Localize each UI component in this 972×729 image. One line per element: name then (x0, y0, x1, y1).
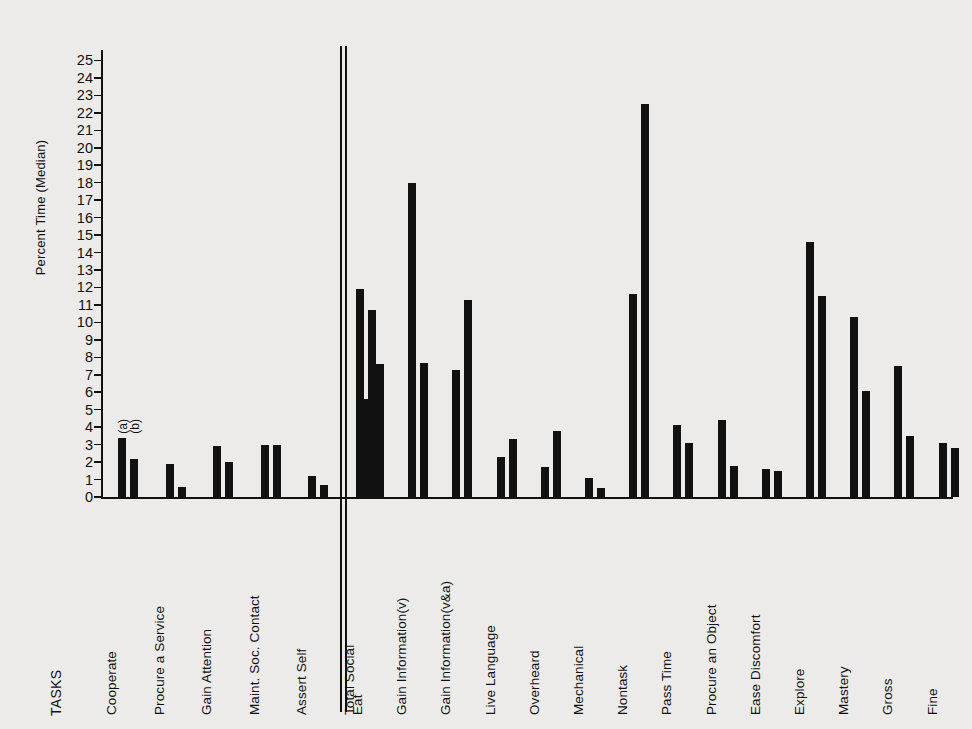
bar (806, 242, 814, 497)
bar (597, 488, 605, 497)
x-axis-tick-labels: TASKS CooperateProcure a ServiceGain Att… (0, 497, 972, 729)
x-axis-title: TASKS (48, 670, 64, 716)
y-axis-tick (94, 374, 101, 376)
y-axis-tick (94, 322, 101, 324)
y-axis-tick-label: 24 (77, 71, 93, 86)
x-axis-tick-label: Gross (880, 678, 895, 715)
bar (553, 431, 561, 497)
y-axis-tick-label: 16 (77, 211, 93, 226)
y-axis-tick-label: 14 (77, 246, 93, 261)
bar (464, 300, 472, 497)
bar (818, 296, 826, 497)
y-axis-tick (94, 391, 101, 393)
y-axis-tick-label: 15 (77, 228, 93, 243)
y-axis-tick (94, 60, 101, 62)
y-axis-tick (94, 147, 101, 149)
y-axis-tick-label: 12 (77, 280, 93, 295)
bar (130, 459, 138, 497)
x-axis-tick-label: Procure an Object (704, 604, 719, 715)
y-axis-tick-label: 18 (77, 176, 93, 191)
bar (541, 467, 549, 497)
bar (376, 364, 384, 497)
y-axis-tick-label: 23 (77, 88, 93, 103)
bar (368, 310, 376, 497)
y-axis-tick-label: 20 (77, 141, 93, 156)
y-axis-tick (94, 269, 101, 271)
bar (320, 485, 328, 497)
bar (213, 446, 221, 497)
y-axis-tick (94, 357, 101, 359)
bar (762, 469, 770, 497)
bar (178, 487, 186, 497)
bar (452, 370, 460, 497)
y-axis-tick-label: 1 (85, 473, 93, 488)
y-axis-tick (94, 252, 101, 254)
y-axis-tick-label: 11 (78, 298, 93, 313)
y-axis-tick (94, 95, 101, 97)
bar (850, 317, 858, 497)
y-axis-tick (94, 339, 101, 341)
y-axis-tick (94, 287, 101, 289)
y-axis-tick-label: 8 (85, 350, 93, 365)
bar (894, 366, 902, 497)
x-axis-tick-label: Gain Information(v&a) (438, 581, 453, 715)
bar (273, 445, 281, 497)
plot-area: (a)(b) (101, 50, 953, 497)
y-axis-tick (94, 461, 101, 463)
x-axis-tick-label: Eat (350, 694, 365, 715)
bar (673, 425, 681, 497)
bar (939, 443, 947, 497)
bar (906, 436, 914, 497)
y-axis-tick (94, 217, 101, 219)
y-axis-tick (94, 304, 101, 306)
bar (685, 443, 693, 497)
x-axis-tick-label: Gain Attention (199, 629, 214, 715)
bar (261, 445, 269, 497)
x-axis-tick-label: Fine (925, 688, 940, 715)
x-axis-tick-label: Live Language (483, 625, 498, 715)
y-axis-tick-label: 3 (85, 438, 93, 453)
bar (118, 438, 126, 497)
y-axis-tick (94, 234, 101, 236)
y-axis-tick-label: 21 (77, 123, 93, 138)
x-axis-tick-label: Overheard (527, 650, 542, 715)
y-axis-tick (94, 479, 101, 481)
y-axis-tick (94, 199, 101, 201)
bar (509, 439, 517, 497)
y-axis-tick-label: 5 (85, 403, 93, 418)
bar (585, 478, 593, 497)
y-axis-line (101, 50, 103, 498)
x-axis-tick-label: Gain Information(v) (394, 598, 409, 715)
y-axis-tick (94, 426, 101, 428)
y-axis-tick (94, 112, 101, 114)
y-axis-tick (94, 444, 101, 446)
y-axis-tick-label: 9 (85, 333, 93, 348)
x-axis-tick-label: Assert Self (294, 649, 309, 715)
y-axis-tick-label: 25 (77, 53, 93, 68)
y-axis-tick-label: 7 (85, 368, 93, 383)
y-axis-tick-label: 22 (77, 106, 93, 121)
y-axis-tick-label: 4 (85, 420, 93, 435)
y-axis-tick-label: 13 (77, 263, 93, 278)
y-axis-tick (94, 182, 101, 184)
x-axis-tick-label: Pass Time (659, 651, 674, 715)
x-axis-tick-label: Procure a Service (152, 606, 167, 715)
bar (408, 183, 416, 497)
series-marker-b: (b) (128, 419, 142, 434)
x-axis-tick-label: Mastery (836, 666, 851, 715)
x-axis-tick-label: Mechanical (571, 646, 586, 715)
x-axis-tick-label: Ease Discomfort (748, 614, 763, 715)
y-axis-tick (94, 409, 101, 411)
section-divider-rule (345, 46, 347, 497)
bar (420, 363, 428, 497)
x-axis-tick-label: Maint. Soc. Contact (247, 595, 262, 715)
y-axis-tick (94, 164, 101, 166)
bar (730, 466, 738, 497)
bar (166, 464, 174, 497)
x-axis-tick-label: Explore (792, 669, 807, 715)
x-axis-tick-label: Nontask (615, 665, 630, 715)
y-axis-tick (94, 77, 101, 79)
y-axis-tick-label: 6 (85, 385, 93, 400)
y-axis-tick-label: 19 (77, 158, 93, 173)
bar (629, 294, 637, 497)
